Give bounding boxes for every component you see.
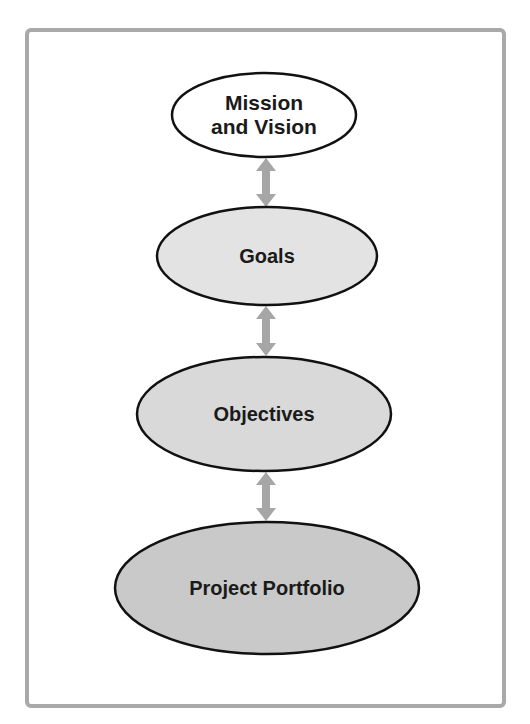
node-label-portfolio: Project Portfolio bbox=[189, 576, 345, 600]
node-label-objectives: Objectives bbox=[213, 402, 314, 426]
node-label-mission: Mission and Vision bbox=[211, 91, 317, 139]
bidirectional-arrow-icon bbox=[256, 472, 276, 521]
bidirectional-arrow-icon bbox=[256, 306, 276, 356]
bidirectional-arrow-icon bbox=[256, 158, 276, 207]
node-label-goals: Goals bbox=[239, 244, 295, 268]
